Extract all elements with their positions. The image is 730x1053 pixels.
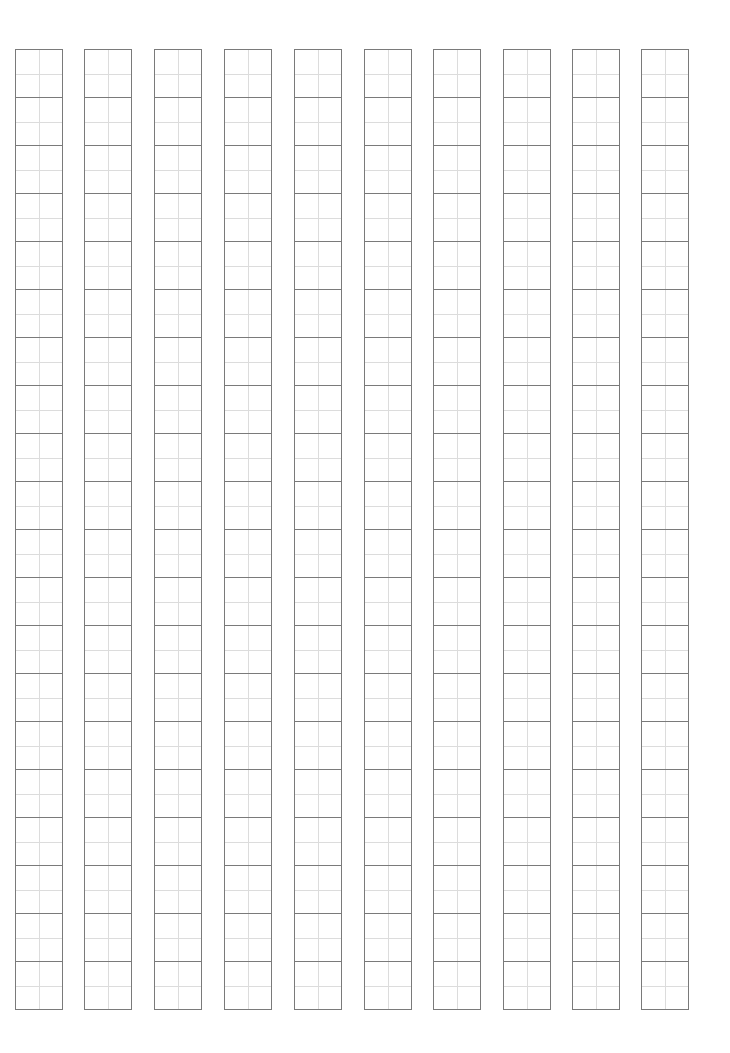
writing-cell [642, 674, 688, 722]
writing-cell [504, 962, 550, 1009]
writing-cell [365, 962, 411, 1009]
horizontal-guide-line [642, 698, 688, 699]
writing-cell [434, 818, 480, 866]
writing-cell [85, 866, 131, 914]
horizontal-guide-line [642, 650, 688, 651]
writing-cell [434, 338, 480, 386]
writing-cell [573, 722, 619, 770]
horizontal-guide-line [85, 554, 131, 555]
writing-cell [16, 722, 62, 770]
horizontal-guide-line [573, 458, 619, 459]
horizontal-guide-line [434, 602, 480, 603]
writing-cell [155, 818, 201, 866]
horizontal-guide-line [295, 506, 341, 507]
writing-cell [225, 770, 271, 818]
practice-column [84, 49, 132, 1010]
writing-cell [504, 818, 550, 866]
horizontal-guide-line [573, 362, 619, 363]
horizontal-guide-line [16, 842, 62, 843]
writing-cell [573, 434, 619, 482]
horizontal-guide-line [573, 218, 619, 219]
writing-cell [85, 242, 131, 290]
horizontal-guide-line [434, 842, 480, 843]
horizontal-guide-line [365, 602, 411, 603]
writing-cell [504, 242, 550, 290]
writing-cell [85, 50, 131, 98]
writing-cell [295, 818, 341, 866]
horizontal-guide-line [573, 890, 619, 891]
writing-cell [365, 242, 411, 290]
writing-cell [225, 194, 271, 242]
writing-cell [225, 290, 271, 338]
writing-cell [155, 338, 201, 386]
writing-cell [16, 482, 62, 530]
writing-cell [365, 386, 411, 434]
horizontal-guide-line [504, 314, 550, 315]
writing-cell [155, 434, 201, 482]
writing-cell [365, 338, 411, 386]
writing-cell [155, 578, 201, 626]
horizontal-guide-line [504, 938, 550, 939]
horizontal-guide-line [155, 698, 201, 699]
horizontal-guide-line [16, 74, 62, 75]
writing-cell [225, 530, 271, 578]
writing-cell [642, 146, 688, 194]
writing-cell [434, 290, 480, 338]
writing-cell [365, 818, 411, 866]
horizontal-guide-line [85, 122, 131, 123]
horizontal-guide-line [16, 554, 62, 555]
writing-cell [504, 578, 550, 626]
writing-cell [365, 434, 411, 482]
horizontal-guide-line [434, 698, 480, 699]
horizontal-guide-line [504, 794, 550, 795]
writing-cell [434, 50, 480, 98]
writing-cell [642, 386, 688, 434]
horizontal-guide-line [225, 746, 271, 747]
writing-cell [225, 962, 271, 1009]
horizontal-guide-line [434, 506, 480, 507]
writing-cell [225, 914, 271, 962]
horizontal-guide-line [573, 122, 619, 123]
horizontal-guide-line [295, 602, 341, 603]
horizontal-guide-line [434, 170, 480, 171]
practice-column [433, 49, 481, 1010]
horizontal-guide-line [295, 314, 341, 315]
horizontal-guide-line [642, 602, 688, 603]
writing-cell [504, 146, 550, 194]
writing-cell [365, 626, 411, 674]
writing-cell [295, 626, 341, 674]
horizontal-guide-line [155, 266, 201, 267]
writing-cell [573, 290, 619, 338]
writing-cell [85, 914, 131, 962]
practice-column [294, 49, 342, 1010]
horizontal-guide-line [504, 602, 550, 603]
horizontal-guide-line [365, 986, 411, 987]
horizontal-guide-line [434, 266, 480, 267]
horizontal-guide-line [642, 794, 688, 795]
horizontal-guide-line [155, 842, 201, 843]
writing-cell [573, 146, 619, 194]
practice-column [641, 49, 689, 1010]
horizontal-guide-line [225, 506, 271, 507]
horizontal-guide-line [573, 314, 619, 315]
horizontal-guide-line [642, 458, 688, 459]
horizontal-guide-line [16, 458, 62, 459]
writing-cell [225, 626, 271, 674]
writing-cell [434, 962, 480, 1009]
horizontal-guide-line [642, 266, 688, 267]
horizontal-guide-line [434, 794, 480, 795]
horizontal-guide-line [225, 890, 271, 891]
writing-cell [642, 914, 688, 962]
writing-cell [155, 50, 201, 98]
horizontal-guide-line [573, 74, 619, 75]
writing-cell [573, 98, 619, 146]
writing-cell [573, 482, 619, 530]
horizontal-guide-line [85, 842, 131, 843]
horizontal-guide-line [85, 458, 131, 459]
writing-cell [504, 482, 550, 530]
horizontal-guide-line [155, 506, 201, 507]
horizontal-guide-line [295, 122, 341, 123]
writing-cell [225, 578, 271, 626]
horizontal-guide-line [573, 650, 619, 651]
horizontal-guide-line [155, 314, 201, 315]
